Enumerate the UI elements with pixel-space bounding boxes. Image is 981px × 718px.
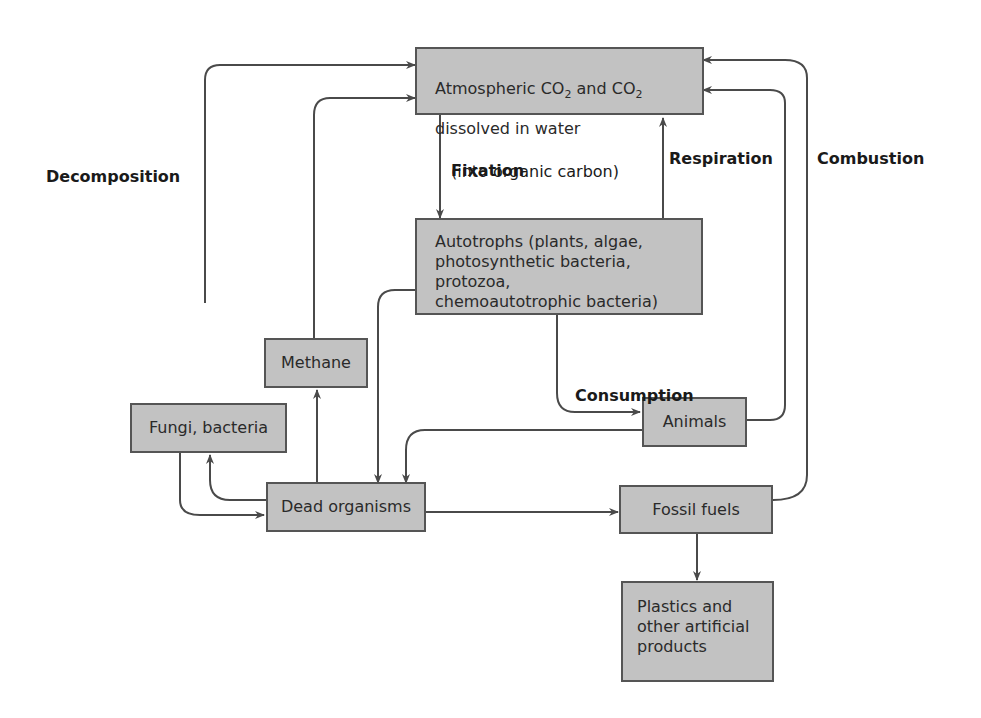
arrow-methane-to-atmosphere (314, 98, 415, 338)
atmosphere-line2: dissolved in water (435, 119, 684, 139)
node-methane: Methane (264, 338, 368, 388)
node-plastics: Plastics and other artificial products (621, 581, 774, 682)
carbon-cycle-diagram: Atmospheric CO2 and CO2 dissolved in wat… (0, 0, 981, 718)
label-respiration: Respiration (669, 129, 773, 169)
arrow-dead-to-fungi (210, 455, 268, 500)
arrow-animals-to-dead (406, 430, 643, 483)
node-fungi-bacteria: Fungi, bacteria (130, 403, 287, 453)
node-autotrophs: Autotrophs (plants, algae, photosyntheti… (415, 218, 703, 315)
node-dead-organisms: Dead organisms (266, 482, 426, 532)
node-fossil-fuels: Fossil fuels (619, 485, 773, 534)
atmosphere-line1: Atmospheric CO2 and CO2 (435, 79, 684, 99)
arrow-autotrophs-to-dead (378, 290, 418, 483)
arrow-fungi-to-dead (180, 453, 264, 515)
label-consumption: Consumption (575, 366, 694, 406)
label-decomposition: Decomposition (46, 147, 180, 187)
arrow-decomposition (205, 65, 415, 303)
node-atmosphere: Atmospheric CO2 and CO2 dissolved in wat… (415, 47, 704, 115)
label-fixation-note: (into organic carbon) (451, 162, 619, 182)
label-combustion: Combustion (817, 129, 924, 169)
